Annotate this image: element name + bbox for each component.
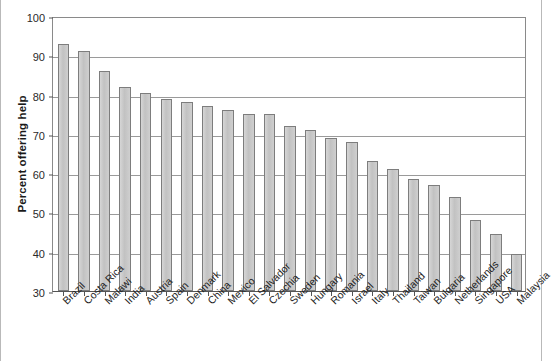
bar: [367, 161, 379, 291]
y-tick-label: 90: [33, 51, 45, 63]
bar: [181, 102, 193, 291]
bar: [387, 169, 399, 291]
bar-slot: [135, 18, 156, 291]
bar-slot: [218, 18, 239, 291]
bar-series: [53, 18, 525, 291]
bar-slot: [74, 18, 95, 291]
bar-slot: [300, 18, 321, 291]
bar: [78, 51, 90, 291]
bar-slot: [94, 18, 115, 291]
bar-slot: [177, 18, 198, 291]
bar-slot: [238, 18, 259, 291]
bar: [140, 93, 152, 291]
plot-area: 30405060708090100: [52, 17, 526, 292]
bar: [325, 138, 337, 291]
y-axis-title: Percent offering help: [16, 69, 28, 239]
y-tick-label: 80: [33, 91, 45, 103]
y-tick-label: 60: [33, 169, 45, 181]
bar-slot: [197, 18, 218, 291]
bar: [161, 99, 173, 292]
bar: [58, 44, 70, 292]
bar-slot: [445, 18, 466, 291]
y-tick-label: 40: [33, 248, 45, 260]
bar: [305, 130, 317, 291]
bar: [243, 114, 255, 291]
bar-slot: [486, 18, 507, 291]
bar-slot: [506, 18, 527, 291]
bar-slot: [53, 18, 74, 291]
bar-slot: [280, 18, 301, 291]
bar-slot: [156, 18, 177, 291]
bar: [99, 71, 111, 291]
y-tick-mark: [49, 293, 53, 294]
bar-slot: [424, 18, 445, 291]
bar-slot: [465, 18, 486, 291]
bar-slot: [115, 18, 136, 291]
bar-slot: [321, 18, 342, 291]
x-axis-labels: BrazilCosta RicaMalawiIndiaAustriaSpainD…: [52, 298, 526, 361]
bar-slot: [403, 18, 424, 291]
bar: [202, 106, 214, 291]
y-tick-label: 100: [27, 12, 45, 24]
bar-slot: [383, 18, 404, 291]
bar: [222, 110, 234, 291]
y-tick-label: 50: [33, 208, 45, 220]
bar: [264, 114, 276, 291]
bar-slot: [342, 18, 363, 291]
y-tick-label: 70: [33, 130, 45, 142]
bar: [119, 87, 131, 291]
y-tick-label: 30: [33, 287, 45, 299]
bar-slot: [259, 18, 280, 291]
bar-slot: [362, 18, 383, 291]
